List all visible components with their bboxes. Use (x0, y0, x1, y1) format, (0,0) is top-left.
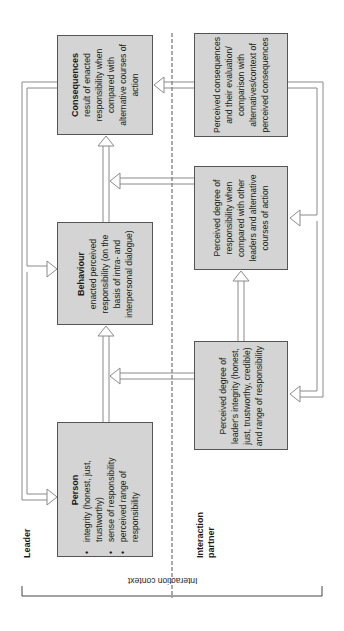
person-bullet-range: perceived range of responsibility (117, 426, 141, 542)
connector-lines (0, 0, 344, 631)
interaction-context-label: Interaction context (128, 576, 197, 586)
perceived-integrity-box: Perceived degree of leader's integrity (… (194, 341, 288, 450)
interaction-partner-label: Interaction partner (195, 512, 217, 558)
behaviour-title: Behaviour (75, 224, 87, 324)
perceived-integrity-text: Perceived degree of leader's integrity (… (217, 344, 265, 448)
person-bullets: integrity (honest, just, trustworthy) se… (81, 426, 141, 554)
interaction-partner-line1: Interaction (195, 512, 206, 558)
interaction-partner-line2: partner (206, 512, 217, 558)
consequences-box: Consequences result of enacted responsib… (57, 35, 153, 135)
perceived-consequences-text: Perceived consequences and their evaluat… (211, 35, 271, 135)
behaviour-text: enacted perceived responsibility (on the… (87, 224, 135, 324)
perceived-responsibility-text: Perceived degree of responsibility when … (211, 168, 271, 268)
perceived-consequences-box: Perceived consequences and their evaluat… (194, 33, 288, 137)
behaviour-box: Behaviour enacted perceived responsibili… (57, 222, 153, 325)
person-title: Person (69, 426, 81, 554)
person-bullet-sense: sense of responsibility (105, 426, 117, 542)
consequences-text: result of enacted responsibility when co… (81, 37, 141, 133)
person-box: Person integrity (honest, just, trustwor… (57, 422, 153, 557)
person-bullet-integrity: integrity (honest, just, trustworthy) (81, 426, 105, 542)
leader-label: Leader (22, 528, 33, 558)
responsibility-diagram: Consequences result of enacted responsib… (0, 0, 344, 631)
perceived-responsibility-box: Perceived degree of responsibility when … (194, 166, 288, 270)
consequences-title: Consequences (69, 37, 81, 133)
